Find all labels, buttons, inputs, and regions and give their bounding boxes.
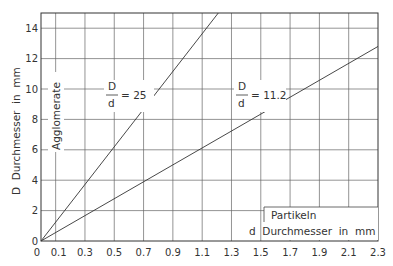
svg-text:0.9: 0.9 <box>165 247 181 258</box>
svg-text:d: d <box>108 97 115 109</box>
svg-text:10: 10 <box>25 84 38 95</box>
svg-text:14: 14 <box>25 23 38 34</box>
svg-text:6: 6 <box>32 144 38 155</box>
svg-text:0.3: 0.3 <box>77 247 93 258</box>
x-axis-label: d Durchmesser in mm <box>249 225 375 237</box>
svg-text:0: 0 <box>32 236 38 247</box>
series-label-25: D d = 25 <box>104 80 154 112</box>
svg-text:0: 0 <box>34 247 40 258</box>
svg-text:1.9: 1.9 <box>311 247 327 258</box>
svg-text:1.5: 1.5 <box>253 247 269 258</box>
svg-text:0.5: 0.5 <box>106 247 122 258</box>
svg-text:1.7: 1.7 <box>282 247 298 258</box>
series-label-11-2: D d = 11.2 <box>234 80 287 112</box>
svg-text:1.1: 1.1 <box>194 247 210 258</box>
svg-text:2.1: 2.1 <box>341 247 357 258</box>
agglomerate-label: Agglomerate <box>50 82 62 150</box>
svg-text:2: 2 <box>32 205 38 216</box>
svg-text:d: d <box>238 97 245 109</box>
svg-text:0.1: 0.1 <box>51 247 67 258</box>
svg-text:12: 12 <box>25 53 38 64</box>
svg-text:4: 4 <box>32 175 38 186</box>
svg-text:0.7: 0.7 <box>136 247 152 258</box>
chart: 00.10.30.50.70.91.11.31.51.71.92.12.3024… <box>0 0 393 266</box>
svg-text:8: 8 <box>32 114 38 125</box>
svg-text:2.3: 2.3 <box>370 247 386 258</box>
svg-text:1.3: 1.3 <box>224 247 240 258</box>
svg-text:D: D <box>238 80 246 92</box>
x-axis-label-top: Partikeln <box>271 209 316 221</box>
svg-text:D: D <box>108 80 116 92</box>
y-axis-label: D Durchmesser in mm <box>10 67 22 195</box>
svg-text:= 11.2: = 11.2 <box>251 89 287 101</box>
svg-text:= 25: = 25 <box>121 89 147 101</box>
